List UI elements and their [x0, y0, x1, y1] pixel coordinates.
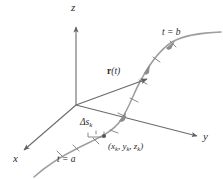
y-axis	[76, 105, 197, 136]
arc-length-label: Δsk	[80, 118, 92, 129]
coord-close: )	[140, 141, 143, 151]
space-curve-diagram	[0, 0, 223, 179]
marked-point	[102, 134, 106, 138]
position-vector-label: r(t)	[107, 67, 120, 77]
figure-container: z y x t = a t = b r(t) Δsk (xk, yk, zk)	[0, 0, 223, 179]
position-vector-argument: (t)	[111, 66, 120, 76]
arc-length-subscript: k	[89, 121, 92, 128]
t-start-label: t = a	[57, 155, 76, 165]
y-axis-label: y	[203, 131, 208, 142]
t-end-label: t = b	[162, 28, 181, 38]
curve-partition-ticks	[57, 41, 176, 157]
arc-length-symbol: Δs	[80, 117, 89, 127]
point-coordinates-label: (xk, yk, zk)	[108, 142, 143, 152]
coord-open: (x	[108, 141, 115, 151]
x-axis-label: x	[13, 153, 18, 164]
x-axis	[24, 105, 76, 150]
z-axis-label: z	[71, 2, 75, 13]
